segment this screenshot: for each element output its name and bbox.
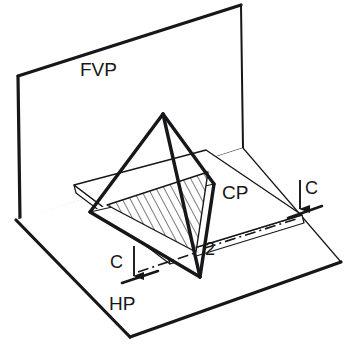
fvp-left-edge bbox=[18, 76, 20, 220]
technical-drawing-figure: FVP HP CP C C 2 bbox=[0, 0, 357, 348]
label-hp: HP bbox=[109, 293, 135, 314]
label-section-arrow-right: C bbox=[305, 178, 318, 198]
label-fvp: FVP bbox=[80, 59, 117, 80]
projection-diagram-svg: FVP HP CP C C 2 bbox=[0, 0, 357, 348]
label-vertex-2: 2 bbox=[205, 239, 215, 259]
label-cp: CP bbox=[222, 182, 248, 203]
label-section-arrow-left: C bbox=[110, 252, 123, 272]
